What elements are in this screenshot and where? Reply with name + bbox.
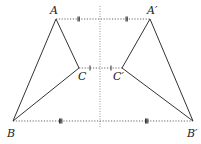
triangle-ABC <box>13 19 79 121</box>
label-C: C <box>78 70 87 83</box>
tick-marks-AA-prime <box>78 17 127 22</box>
label-A-prime: A′ <box>146 4 158 17</box>
reflection-diagram: A A′ B B′ C C′ <box>0 0 201 144</box>
label-A: A <box>49 4 58 17</box>
triangle-A-prime-B-prime-C-prime <box>122 19 193 121</box>
label-B-prime: B′ <box>186 127 198 140</box>
label-B: B <box>6 127 15 140</box>
label-C-prime: C′ <box>113 70 124 83</box>
